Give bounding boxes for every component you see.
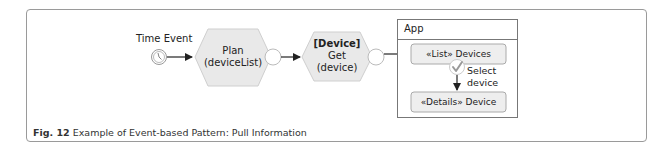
get-step-name: Get <box>305 50 369 62</box>
list-screen-label: «List» Devices <box>411 44 506 64</box>
plan-end-circle <box>265 49 281 65</box>
figure-caption: Fig. 12 Example of Event-based Pattern: … <box>33 127 307 138</box>
get-step-param: (device) <box>305 62 369 74</box>
timer-icon <box>152 50 167 65</box>
get-step-entity: [Device] <box>305 38 369 50</box>
caption-text: Example of Event-based Pattern: Pull Inf… <box>70 127 307 138</box>
details-screen-label: «Details» Device <box>411 92 506 112</box>
time-event-label: Time Event <box>136 33 192 44</box>
plan-step-param: (deviceList) <box>200 57 266 69</box>
get-step-label: [Device] Get (device) <box>305 38 369 74</box>
plan-step-name: Plan <box>200 45 266 57</box>
caption-label: Fig. 12 <box>33 127 70 138</box>
get-end-circle <box>368 49 384 65</box>
transition-line-1: Select <box>467 65 498 77</box>
app-title: App <box>404 23 424 34</box>
transition-label: Select device <box>467 65 498 89</box>
transition-line-2: device <box>467 77 498 89</box>
plan-step-label: Plan (deviceList) <box>200 45 266 69</box>
